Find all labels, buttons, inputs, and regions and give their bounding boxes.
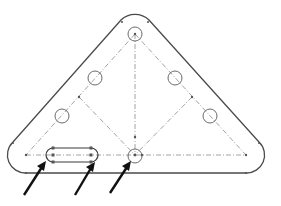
right-upper-hole xyxy=(168,71,182,85)
left-upper-hole xyxy=(88,71,102,85)
slot xyxy=(46,147,98,164)
arrow-slot-left xyxy=(24,161,46,195)
arrow-center-hole xyxy=(110,161,131,193)
left-lower-hole xyxy=(55,109,69,123)
sketch-points xyxy=(12,21,260,174)
sketch-diagram xyxy=(0,0,281,206)
arrow-slot-right xyxy=(75,162,95,195)
